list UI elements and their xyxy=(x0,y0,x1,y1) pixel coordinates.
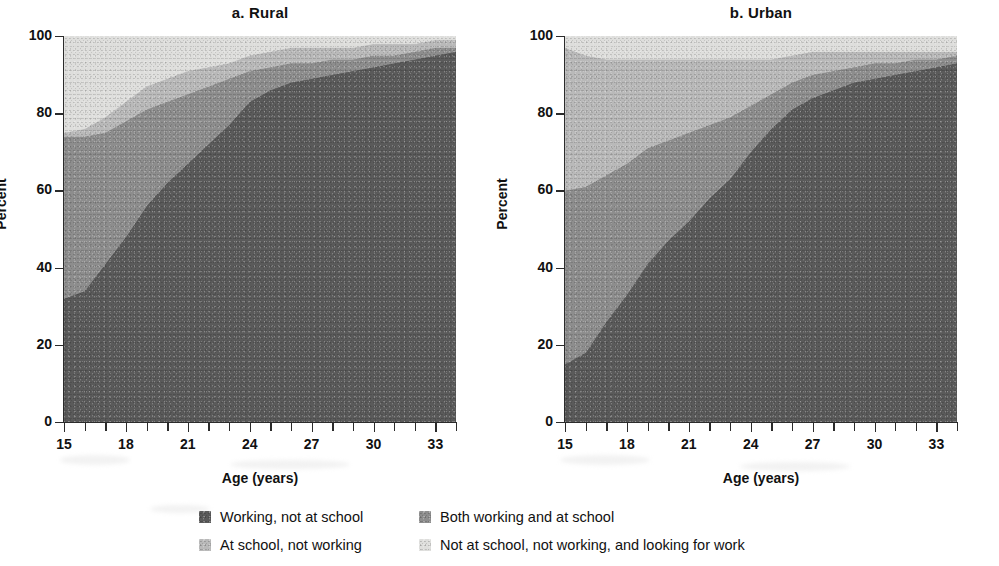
x-tick-mark xyxy=(291,423,292,431)
y-tick-mark xyxy=(55,113,63,114)
x-tick-mark xyxy=(147,423,148,431)
x-tick-mark xyxy=(709,423,710,431)
y-tick-label: 20 xyxy=(501,336,553,352)
x-tick-mark xyxy=(689,423,690,432)
y-tick-mark xyxy=(55,345,63,346)
legend-swatch-icon xyxy=(199,539,211,551)
x-tick-mark xyxy=(250,423,251,432)
x-tick-label: 21 xyxy=(681,436,697,452)
x-tick-label: 18 xyxy=(619,436,635,452)
x-tick-mark xyxy=(456,423,457,431)
y-tick-mark xyxy=(556,422,564,423)
x-tick-mark xyxy=(751,423,752,432)
y-axis-title-rural: Percent xyxy=(0,178,9,229)
x-tick-mark xyxy=(606,423,607,431)
legend-label: At school, not working xyxy=(220,538,362,553)
x-tick-mark xyxy=(126,423,127,432)
x-tick-mark xyxy=(167,423,168,431)
y-tick-label: 40 xyxy=(501,259,553,275)
area-chart-rural xyxy=(64,36,456,422)
x-tick-mark xyxy=(854,423,855,431)
x-tick-label: 15 xyxy=(557,436,573,452)
x-tick-mark xyxy=(627,423,628,432)
x-tick-label: 24 xyxy=(242,436,258,452)
x-tick-mark xyxy=(394,423,395,431)
x-tick-mark xyxy=(936,423,937,432)
y-tick-mark xyxy=(55,268,63,269)
x-tick-label: 21 xyxy=(180,436,196,452)
plot-inner-urban xyxy=(565,36,957,422)
y-tick-mark xyxy=(556,113,564,114)
x-tick-mark xyxy=(374,423,375,432)
y-tick-mark xyxy=(556,36,564,37)
x-tick-mark xyxy=(64,423,65,432)
legend-item: Not at school, not working, and looking … xyxy=(419,531,745,559)
x-tick-label: 27 xyxy=(805,436,821,452)
panel-rural: a. Rural 020406080100 15182124273033 Per… xyxy=(0,0,500,500)
x-tick-mark xyxy=(648,423,649,431)
x-tick-label: 18 xyxy=(118,436,134,452)
plot-area-rural xyxy=(64,36,456,422)
x-tick-mark xyxy=(332,423,333,431)
plot-area-urban xyxy=(565,36,957,422)
x-tick-mark xyxy=(85,423,86,431)
x-tick-label: 15 xyxy=(56,436,72,452)
x-tick-mark xyxy=(435,423,436,432)
x-tick-mark xyxy=(771,423,772,431)
x-axis-title-urban: Age (years) xyxy=(565,470,957,486)
legend-label: Not at school, not working, and looking … xyxy=(440,538,745,553)
legend-item: At school, not working xyxy=(199,531,403,559)
x-tick-mark xyxy=(813,423,814,432)
x-tick-mark xyxy=(353,423,354,431)
legend-swatch-icon xyxy=(419,539,431,551)
legend-grid: Working, not at schoolBoth working and a… xyxy=(199,503,745,559)
x-tick-label: 33 xyxy=(428,436,444,452)
x-tick-label: 24 xyxy=(743,436,759,452)
x-tick-mark xyxy=(586,423,587,431)
y-tick-label: 100 xyxy=(501,27,553,43)
y-tick-label: 0 xyxy=(0,413,52,429)
legend-label: Working, not at school xyxy=(220,510,363,525)
y-tick-label: 0 xyxy=(501,413,553,429)
x-tick-mark xyxy=(208,423,209,431)
y-tick-label: 40 xyxy=(0,259,52,275)
x-tick-mark xyxy=(415,423,416,431)
panel-title-rural: a. Rural xyxy=(0,4,510,21)
x-tick-mark xyxy=(668,423,669,431)
x-tick-mark xyxy=(792,423,793,431)
panel-urban: b. Urban 020406080100 15182124273033 Per… xyxy=(499,0,999,500)
print-grain-texture xyxy=(199,539,211,551)
y-axis-line-urban xyxy=(564,36,565,423)
y-tick-mark xyxy=(556,345,564,346)
y-tick-mark xyxy=(55,190,63,191)
x-tick-mark xyxy=(270,423,271,431)
x-axis-line-urban xyxy=(564,422,958,423)
legend-item: Both working and at school xyxy=(419,503,745,531)
print-grain-texture xyxy=(199,511,211,523)
y-tick-label: 100 xyxy=(0,27,52,43)
plot-inner-rural xyxy=(64,36,456,422)
x-tick-mark xyxy=(957,423,958,431)
y-tick-mark xyxy=(55,36,63,37)
area-chart-urban xyxy=(565,36,957,422)
y-tick-label: 80 xyxy=(501,104,553,120)
y-tick-mark xyxy=(55,422,63,423)
print-grain-texture xyxy=(419,511,431,523)
legend-label: Both working and at school xyxy=(440,510,614,525)
panel-title-urban: b. Urban xyxy=(499,4,999,21)
x-tick-label: 33 xyxy=(929,436,945,452)
legend-swatch-icon xyxy=(199,511,211,523)
x-tick-mark xyxy=(105,423,106,431)
y-tick-label: 80 xyxy=(0,104,52,120)
x-tick-mark xyxy=(229,423,230,431)
legend-swatch-icon xyxy=(419,511,431,523)
x-tick-label: 27 xyxy=(304,436,320,452)
figure-root: a. Rural 020406080100 15182124273033 Per… xyxy=(0,0,999,566)
y-tick-mark xyxy=(556,190,564,191)
x-tick-mark xyxy=(895,423,896,431)
x-tick-mark xyxy=(730,423,731,431)
y-tick-mark xyxy=(556,268,564,269)
x-tick-label: 30 xyxy=(867,436,883,452)
legend: Working, not at schoolBoth working and a… xyxy=(0,503,999,563)
x-axis-title-rural: Age (years) xyxy=(64,470,456,486)
